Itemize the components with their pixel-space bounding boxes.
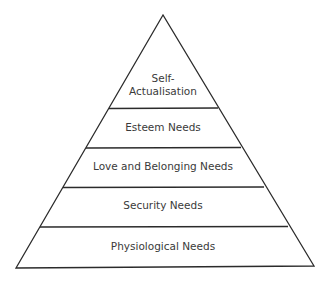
divider-2 — [86, 148, 241, 149]
level-self-actualisation: Self- Actualisation — [129, 72, 197, 98]
divider-4 — [40, 227, 288, 228]
level-label-line2: Actualisation — [129, 85, 197, 98]
divider-1 — [109, 108, 218, 109]
pyramid-triangle — [16, 15, 314, 268]
divider-3 — [63, 187, 264, 188]
level-physiological: Physiological Needs — [111, 240, 215, 253]
pyramid-diagram: Self- Actualisation Esteem Needs Love an… — [0, 0, 329, 286]
level-label-line1: Self- — [129, 72, 197, 85]
level-security: Security Needs — [123, 199, 202, 212]
level-esteem: Esteem Needs — [125, 121, 201, 134]
level-love-belonging: Love and Belonging Needs — [93, 160, 233, 173]
